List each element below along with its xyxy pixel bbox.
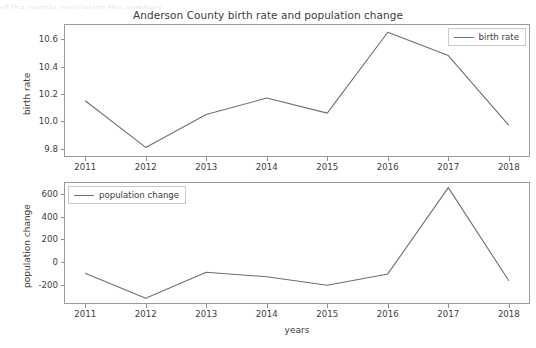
legend-population-change[interactable]: population change [68, 186, 186, 204]
y-tick-mark [61, 262, 65, 263]
x-tick-label: 2014 [256, 162, 278, 172]
y-tick-label: 10.0 [39, 116, 58, 126]
x-tick-label: 2012 [135, 309, 157, 319]
cropped-text-bleed: of the people population the numbers [0, 0, 536, 9]
chart-panel-population-change: population change [64, 182, 530, 304]
y-tick-mark [61, 217, 65, 218]
x-tick-mark [146, 157, 147, 161]
x-tick-mark [509, 304, 510, 308]
x-tick-label: 2018 [498, 309, 520, 319]
x-tick-mark [448, 304, 449, 308]
x-tick-mark [267, 304, 268, 308]
x-tick-mark [327, 304, 328, 308]
matplotlib-figure: of the people population the numbers And… [0, 0, 536, 348]
y-axis-label-birth-rate: birth rate [22, 73, 32, 115]
x-tick-label: 2011 [74, 309, 96, 319]
y-tick-label: 10.4 [39, 62, 58, 72]
legend-line-icon [74, 195, 94, 196]
x-tick-mark [327, 157, 328, 161]
x-tick-mark [388, 157, 389, 161]
line-population-change [85, 188, 509, 299]
legend-birth-rate[interactable]: birth rate [448, 28, 526, 46]
x-tick-label: 2015 [316, 162, 338, 172]
x-tick-label: 2013 [195, 309, 217, 319]
x-tick-label: 2011 [74, 162, 96, 172]
y-tick-label: 600 [42, 189, 58, 199]
y-tick-label: -200 [38, 280, 58, 290]
x-tick-label: 2016 [377, 162, 399, 172]
legend-line-icon [454, 37, 474, 38]
x-tick-mark [388, 304, 389, 308]
x-tick-mark [448, 157, 449, 161]
x-tick-label: 2016 [377, 309, 399, 319]
y-tick-label: 10.2 [39, 89, 58, 99]
legend-label-birth-rate: birth rate [479, 32, 519, 42]
y-tick-mark [61, 121, 65, 122]
x-tick-mark [267, 157, 268, 161]
x-tick-label: 2018 [498, 162, 520, 172]
line-birth-rate [85, 32, 509, 147]
x-tick-mark [146, 304, 147, 308]
y-axis-label-population-change: population change [22, 204, 32, 288]
y-tick-mark [61, 239, 65, 240]
x-tick-label: 2012 [135, 162, 157, 172]
x-tick-mark [206, 304, 207, 308]
y-tick-label: 400 [42, 212, 58, 222]
y-tick-mark [61, 67, 65, 68]
x-tick-label: 2017 [437, 162, 459, 172]
y-tick-mark [61, 149, 65, 150]
x-tick-label: 2017 [437, 309, 459, 319]
y-tick-mark [61, 94, 65, 95]
x-tick-label: 2014 [256, 309, 278, 319]
x-tick-label: 2013 [195, 162, 217, 172]
y-tick-label: 10.6 [39, 34, 58, 44]
y-tick-mark [61, 285, 65, 286]
x-tick-label: 2015 [316, 309, 338, 319]
y-tick-label: 9.8 [44, 144, 58, 154]
x-tick-mark [206, 157, 207, 161]
y-tick-mark [61, 39, 65, 40]
x-axis-label-years: years [64, 325, 530, 335]
x-tick-mark [85, 304, 86, 308]
figure-title: Anderson County birth rate and populatio… [0, 9, 536, 21]
x-tick-mark [509, 157, 510, 161]
y-tick-label: 200 [42, 234, 58, 244]
y-tick-mark [61, 194, 65, 195]
chart-panel-birth-rate: birth rate [64, 24, 530, 157]
x-tick-mark [85, 157, 86, 161]
legend-label-population-change: population change [99, 190, 179, 200]
y-tick-label: 0 [53, 257, 58, 267]
